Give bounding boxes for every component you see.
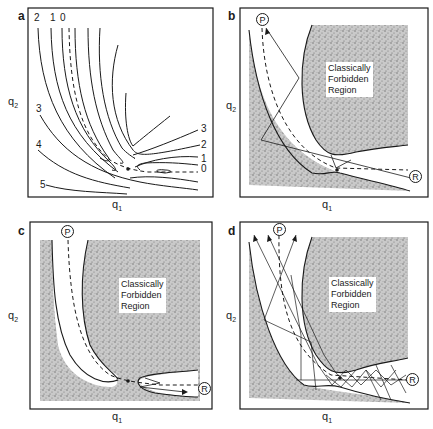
contour-plot: [0, 0, 216, 215]
forbidden-region-label: Classically Forbidden Region: [329, 277, 376, 312]
contour-label: 0: [201, 164, 207, 174]
reactant-marker: R: [409, 170, 422, 183]
y-axis-label: q2: [226, 100, 236, 113]
reactant-marker: R: [198, 382, 211, 395]
panel-letter: c: [18, 225, 25, 237]
y-axis-label: q2: [226, 310, 236, 323]
product-marker: P: [273, 223, 286, 236]
contour-label: 3: [201, 124, 207, 134]
panel-c: Classically Forbidden Region P R c q2 q1: [0, 215, 216, 429]
trajectory-plot: [0, 215, 216, 429]
x-axis-label: q1: [322, 199, 332, 212]
x-axis-label: q1: [112, 411, 122, 424]
y-axis-label: q2: [8, 96, 18, 109]
x-axis-label: q1: [322, 411, 332, 424]
contour-label: 4: [36, 140, 42, 150]
panel-letter: b: [228, 10, 235, 22]
contour-label: 2: [201, 140, 207, 150]
product-marker: P: [61, 225, 74, 238]
forbidden-region-label: Classically Forbidden Region: [119, 278, 166, 313]
product-marker: P: [256, 13, 269, 26]
panel-letter: a: [18, 10, 25, 22]
panel-d: Classically Forbidden Region P R d q2 q1: [216, 215, 433, 429]
y-axis-label: q2: [8, 310, 18, 323]
reactant-marker: R: [406, 373, 419, 386]
panel-b: Classically Forbidden Region P R b q2 q1: [216, 0, 433, 215]
contour-label: 5: [40, 180, 46, 190]
trajectory-plot: [216, 0, 433, 215]
trajectory-plot: [216, 215, 433, 429]
contour-label: 1: [50, 13, 56, 23]
panel-letter: d: [228, 225, 235, 237]
contour-label: 2: [34, 13, 40, 23]
contour-label: 0: [60, 13, 66, 23]
x-axis-label: q1: [112, 199, 122, 212]
panel-a: a 2 1 0 3 4 5 3 2 1 0 q2 q1: [0, 0, 216, 215]
contour-label: 3: [36, 104, 42, 114]
forbidden-region-label: Classically Forbidden Region: [326, 62, 373, 97]
